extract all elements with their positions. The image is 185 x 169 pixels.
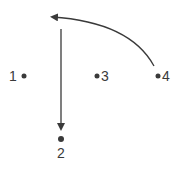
point-3-dot <box>95 74 100 79</box>
point-4-label: 4 <box>162 68 170 84</box>
point-2-label: 2 <box>57 145 65 161</box>
curved-arrow <box>52 17 154 66</box>
point-3-label: 3 <box>101 68 109 84</box>
point-3: 3 <box>95 68 110 84</box>
diagram-svg: 1 3 4 2 <box>0 0 185 169</box>
point-1-dot <box>22 74 27 79</box>
point-4-dot <box>156 74 161 79</box>
point-1-label: 1 <box>9 68 17 84</box>
point-2-dot <box>58 136 64 142</box>
point-2: 2 <box>57 136 65 161</box>
point-4: 4 <box>156 68 171 84</box>
point-1: 1 <box>9 68 27 84</box>
diagram-canvas: 1 3 4 2 <box>0 0 185 169</box>
